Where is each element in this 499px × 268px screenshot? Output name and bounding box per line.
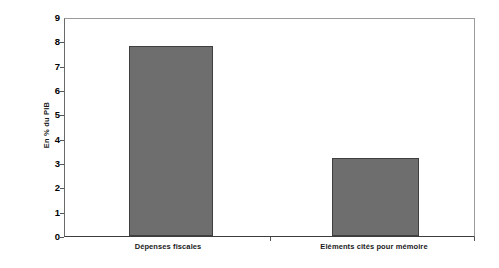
y-axis-tick-mark — [60, 140, 64, 141]
y-axis-tick-label: 7 — [44, 62, 60, 72]
y-axis-tick-label: 4 — [44, 135, 60, 145]
y-axis-tick-mark — [60, 213, 64, 214]
y-axis-tick-mark — [60, 237, 64, 238]
y-axis-tick-label: 3 — [44, 159, 60, 169]
x-axis-tick-mark — [270, 237, 271, 241]
y-axis-tick-mark — [60, 115, 64, 116]
bar — [129, 46, 213, 236]
x-axis-tick-mark — [474, 237, 475, 241]
y-axis-tick-label: 6 — [44, 86, 60, 96]
y-axis-tick-label: 9 — [44, 13, 60, 23]
plot-area — [64, 18, 475, 237]
y-axis-tick-mark — [60, 67, 64, 68]
y-axis-tick-label: 0 — [44, 232, 60, 242]
y-axis-tick-mark — [60, 91, 64, 92]
y-axis-tick-label: 1 — [44, 208, 60, 218]
y-axis-tick-label: 2 — [44, 183, 60, 193]
y-axis-tick-label: 8 — [44, 37, 60, 47]
x-axis-tick-label: Dépenses fiscales — [68, 242, 268, 251]
bar-chart: En % du PIB 0123456789 Dépenses fiscales… — [0, 0, 499, 268]
y-axis-tick-label: 5 — [44, 110, 60, 120]
y-axis-tick-mark — [60, 164, 64, 165]
y-axis-tick-mark — [60, 42, 64, 43]
bar — [332, 158, 419, 236]
x-axis-tick-label: Eléments cités pour mémoire — [274, 242, 474, 251]
y-axis-tick-mark — [60, 188, 64, 189]
y-axis-tick-labels: 0123456789 — [44, 12, 60, 243]
